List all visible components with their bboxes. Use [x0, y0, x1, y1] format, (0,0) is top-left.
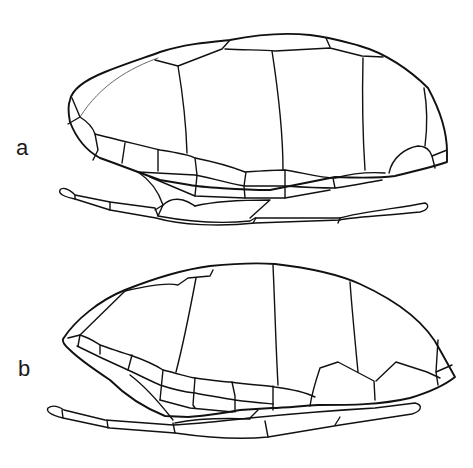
- plastron-b: [48, 403, 421, 438]
- panel-label-a: a: [16, 137, 28, 159]
- shell-drawing-b: [48, 263, 455, 438]
- figure: a b: [0, 0, 473, 468]
- plastron-a: [60, 188, 428, 225]
- carapace-outline-b: [63, 263, 455, 417]
- shell-drawing-a: [60, 34, 447, 225]
- panel-label-b: b: [18, 358, 30, 380]
